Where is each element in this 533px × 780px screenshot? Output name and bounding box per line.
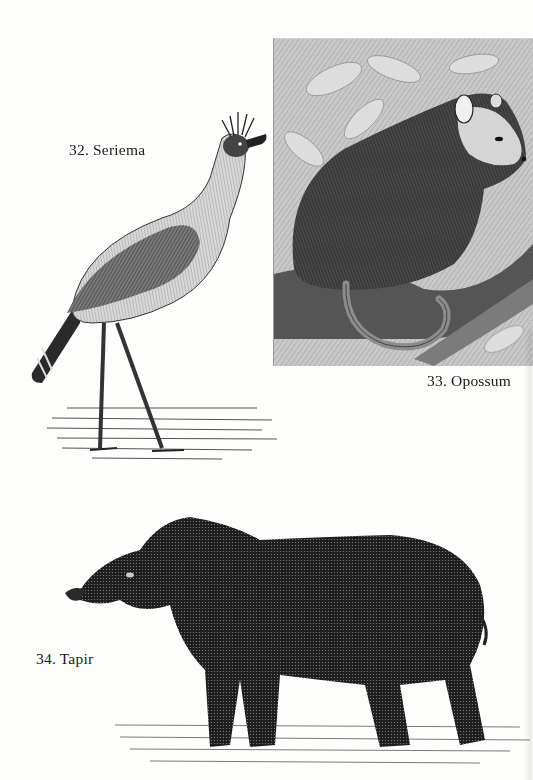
bird-engraving-icon <box>22 108 284 470</box>
caption-seriema: 32. Seriema <box>69 141 145 159</box>
tapir-engraving-icon <box>60 505 532 777</box>
opossum-engraving-icon <box>274 39 533 366</box>
page-gutter-shadow <box>524 330 532 780</box>
caption-tapir: 34. Tapir <box>36 650 93 668</box>
opossum-illustration <box>273 38 533 366</box>
tapir-illustration <box>60 505 532 777</box>
seriema-illustration <box>22 108 284 470</box>
caption-opossum: 33. Opossum <box>427 372 511 390</box>
